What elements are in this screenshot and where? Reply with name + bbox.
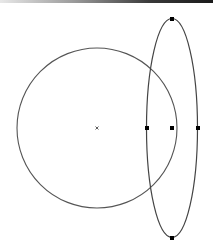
resize-handle-center[interactable]	[170, 126, 174, 130]
resize-handle-bottom[interactable]	[170, 236, 174, 240]
resize-handle-left[interactable]	[145, 126, 149, 130]
resize-handle-top[interactable]	[170, 17, 174, 21]
drawing-surface[interactable]	[0, 0, 213, 250]
resize-handle-right[interactable]	[196, 126, 200, 130]
selection-handles[interactable]	[145, 17, 200, 240]
drawing-canvas[interactable]	[0, 0, 213, 250]
center-cross-icon	[96, 127, 99, 130]
